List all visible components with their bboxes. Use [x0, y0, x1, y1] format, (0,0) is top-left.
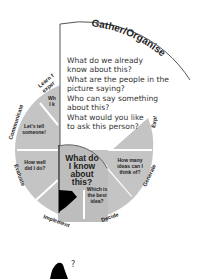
generate-text-3: think of? [119, 169, 140, 175]
svg-text:I k: I k [49, 101, 55, 107]
decide-text-3: idea? [90, 198, 103, 204]
question-4: What would you like to ask this person? [67, 114, 197, 131]
question-1: What do we already know about this? [67, 57, 197, 74]
thinking-figure-icon: ? [50, 260, 75, 279]
cycle-diagram: Gather/Organise Learn f exper Communicat… [0, 0, 210, 279]
question-2: What are the people in the picture sayin… [67, 76, 197, 93]
svg-text:?: ? [71, 260, 75, 269]
evaluate-text-2: did I do? [25, 165, 46, 171]
center-text-4: this? [72, 177, 92, 187]
communicate-text-2: someone! [22, 129, 46, 135]
question-3: Who can say something about this? [67, 95, 197, 112]
